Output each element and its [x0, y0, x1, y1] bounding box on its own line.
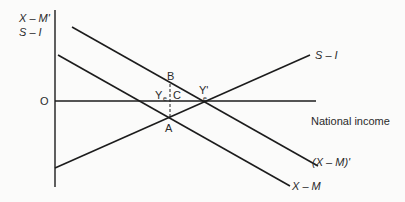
origin-label: O [40, 95, 49, 107]
point-ye-prime-subscript: e [203, 95, 207, 102]
point-b-label: B [167, 70, 174, 82]
point-ye-label: Y [155, 89, 163, 101]
point-c-label: C [173, 89, 181, 101]
diagram-canvas: X – M' S – I O National income S – I (X … [0, 0, 405, 202]
x-minus-m-label: X – M [291, 180, 322, 192]
point-a-label: A [165, 122, 173, 134]
s-minus-i-line [55, 55, 310, 168]
x-minus-m-prime-label: (X – M)' [312, 156, 351, 168]
x-axis-label: National income [311, 115, 390, 127]
y-axis-label-line2: S – I [19, 26, 42, 38]
point-ye-subscript: e [163, 95, 167, 102]
y-axis-label-line1: X – M' [18, 12, 51, 24]
x-minus-m-prime-line [72, 27, 318, 166]
s-minus-i-label: S – I [315, 49, 338, 61]
